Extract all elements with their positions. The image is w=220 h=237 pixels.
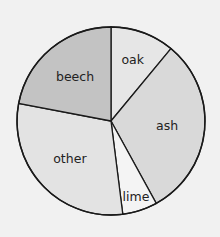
label-other: other [53,151,87,166]
pie-chart: oakashlimeotherbeech [0,0,220,237]
label-ash: ash [156,118,178,133]
label-oak: oak [121,52,144,67]
label-lime: lime [123,189,150,204]
label-beech: beech [56,69,94,84]
